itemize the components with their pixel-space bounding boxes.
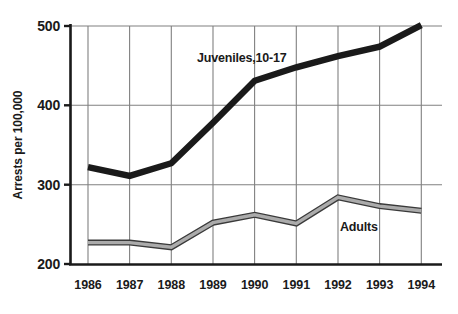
x-tick-label-1993: 1993 — [366, 278, 394, 292]
chart-container: 500 400 300 200 Arrests per 100,000 1986… — [0, 0, 458, 314]
x-tick-label-1991: 1991 — [283, 278, 311, 292]
x-tick-label-1986: 1986 — [74, 278, 102, 292]
y-tick-label-300: 300 — [37, 177, 60, 193]
x-tick-label-1987: 1987 — [116, 278, 144, 292]
x-tick-label-1994: 1994 — [408, 278, 436, 292]
x-tick-label-1992: 1992 — [324, 278, 352, 292]
series-label-juveniles: Juveniles,10-17 — [197, 51, 287, 65]
y-tick-label-500: 500 — [37, 18, 60, 34]
y-tick-label-200: 200 — [37, 256, 60, 272]
y-tick-label-400: 400 — [37, 97, 60, 113]
x-tick-label-1988: 1988 — [158, 278, 186, 292]
x-tick-label-1989: 1989 — [199, 278, 227, 292]
y-axis-title: Arrests per 100,000 — [11, 90, 25, 199]
series-label-adults: Adults — [340, 220, 378, 234]
x-tick-label-1990: 1990 — [241, 278, 269, 292]
line-chart: 500 400 300 200 Arrests per 100,000 1986… — [0, 0, 458, 314]
